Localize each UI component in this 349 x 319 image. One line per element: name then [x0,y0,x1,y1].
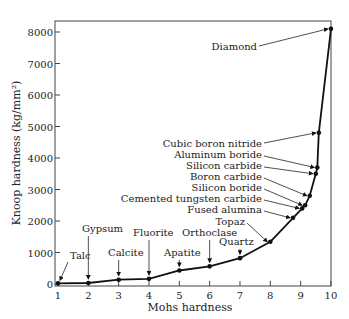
data-point [314,171,319,176]
data-point [317,131,322,136]
y-tick-label: 4000 [28,153,53,164]
x-tick-label: 7 [237,290,243,301]
data-point [329,27,334,32]
point-label: Gypsum [82,223,124,234]
y-tick-label: 5000 [28,122,53,133]
data-point [147,277,152,282]
data-point [268,239,273,244]
x-axis-label: Mohs hardness [148,301,233,314]
point-label: Calcite [108,247,144,258]
x-tick-label: 5 [176,290,182,301]
x-tick-label: 2 [85,290,91,301]
data-point [177,268,182,273]
x-tick-label: 6 [206,290,212,301]
data-point [315,165,320,170]
y-tick-label: 0 [47,279,53,290]
point-label: Fused alumina [187,204,262,215]
point-label: Aluminum boride [173,149,262,160]
data-point [307,194,312,199]
x-tick-label: 4 [146,290,152,301]
point-label: Quartz [219,236,254,247]
x-tick-label: 9 [297,290,303,301]
data-point [56,281,61,286]
data-point [116,277,121,282]
data-point [207,264,212,269]
hardness-chart: 010002000300040005000600070008000 123456… [0,0,349,319]
y-tick-label: 3000 [28,185,53,196]
annotations: TalcGypsumCalciteFluoriteApatiteOrthocla… [60,29,328,281]
x-tick-label: 3 [115,290,121,301]
y-tick-label: 1000 [28,248,53,259]
data-point [238,256,243,261]
point-label: Apatite [163,247,201,258]
x-tick-label: 8 [267,290,273,301]
y-tick-label: 7000 [28,59,53,70]
data-point [303,203,308,208]
y-tick-label: 6000 [28,90,53,101]
point-label: Fluorite [133,227,174,238]
y-tick-label: 8000 [28,27,53,38]
point-label: Silicon carbide [186,160,262,171]
x-tick-label: 10 [325,290,338,301]
data-point [291,216,296,221]
data-point [86,281,91,286]
x-axis: 12345678910 [55,281,338,301]
point-label: Cubic boron nitride [163,138,262,149]
point-label: Silicon boride [192,182,262,193]
point-label: Cemented tungsten carbide [121,193,262,204]
x-tick-label: 1 [55,290,61,301]
point-label: Diamond [211,41,257,52]
y-tick-label: 2000 [28,216,53,227]
point-label: Talc [70,250,91,261]
point-label: Boron carbide [190,171,262,182]
y-axis-label: Knoop hardness (kg/mm²) [10,81,23,226]
point-label: Topaz [215,216,245,227]
